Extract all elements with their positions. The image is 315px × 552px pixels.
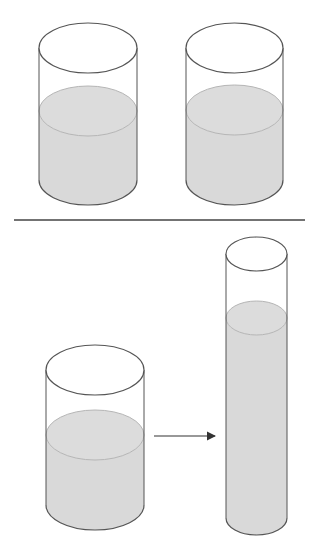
cylinder-b bbox=[186, 23, 283, 205]
cylinder-wide bbox=[46, 345, 144, 530]
liquid-surface bbox=[46, 410, 144, 460]
cylinder-a bbox=[39, 23, 137, 205]
cylinder-tall bbox=[226, 237, 287, 535]
liquid-body bbox=[226, 318, 287, 535]
cylinder-rim bbox=[46, 345, 144, 395]
liquid-surface bbox=[39, 86, 137, 136]
conservation-diagram bbox=[0, 0, 315, 552]
cylinder-rim bbox=[39, 23, 137, 73]
cylinder-rim bbox=[226, 237, 287, 271]
liquid-surface bbox=[226, 301, 287, 335]
liquid-surface bbox=[186, 85, 283, 135]
cylinder-rim bbox=[186, 23, 283, 73]
